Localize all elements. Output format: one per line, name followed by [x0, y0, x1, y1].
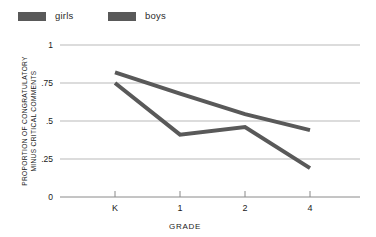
plot-area: 0.25.5.751 K124 GRADE PROPORTION OF CONG… [0, 0, 376, 237]
x-tick-label: 4 [307, 203, 312, 213]
y-tick-label: .5 [46, 116, 53, 126]
y-tick-label: 1 [48, 40, 53, 50]
x-axis-title: GRADE [169, 222, 201, 231]
data-line-girls [115, 83, 310, 168]
y-tick-label: .25 [41, 154, 53, 164]
y-tick-label: .75 [41, 78, 53, 88]
x-tick-marks-group [115, 191, 310, 197]
x-tick-label: 1 [177, 203, 182, 213]
x-tick-label: K [112, 203, 118, 213]
x-tick-label: 2 [242, 203, 247, 213]
y-tick-label: 0 [48, 192, 53, 202]
y-axis-title: PROPORTION OF CONGRATULATORY MINUS CRITI… [21, 56, 37, 186]
y-axis-title-line2: MINUS CRITICAL COMMENTS [30, 70, 37, 171]
gridlines-group [60, 45, 360, 197]
chart-container: girls boys 0.25.5.751 K124 GRADE PROPORT… [0, 0, 376, 237]
data-series-group [115, 72, 310, 168]
y-axis-title-line1: PROPORTION OF CONGRATULATORY [21, 56, 28, 186]
y-tick-labels-group: 0.25.5.751 [41, 40, 53, 202]
x-tick-labels-group: K124 [112, 203, 313, 213]
